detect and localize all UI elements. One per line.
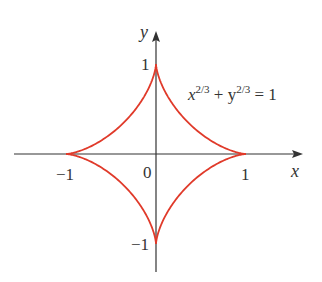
equation-plus: + (210, 85, 228, 104)
equation-rhs: = 1 (250, 85, 277, 104)
x-axis-label: x (290, 161, 299, 181)
tick-label-x-pos: 1 (241, 165, 250, 184)
astroid-diagram: y x 0 −1 1 1 −1 x2/3 + y2/3 = 1 (0, 0, 322, 282)
equation-x-exp: 2/3 (196, 83, 211, 95)
tick-label-x-neg: −1 (56, 165, 74, 184)
equation-y-exp: 2/3 (236, 83, 251, 95)
tick-label-y-pos: 1 (141, 55, 150, 74)
tick-label-y-neg: −1 (131, 235, 149, 254)
y-axis-label: y (138, 22, 148, 42)
equation-label: x2/3 + y2/3 = 1 (187, 83, 277, 104)
origin-label: 0 (143, 163, 152, 182)
